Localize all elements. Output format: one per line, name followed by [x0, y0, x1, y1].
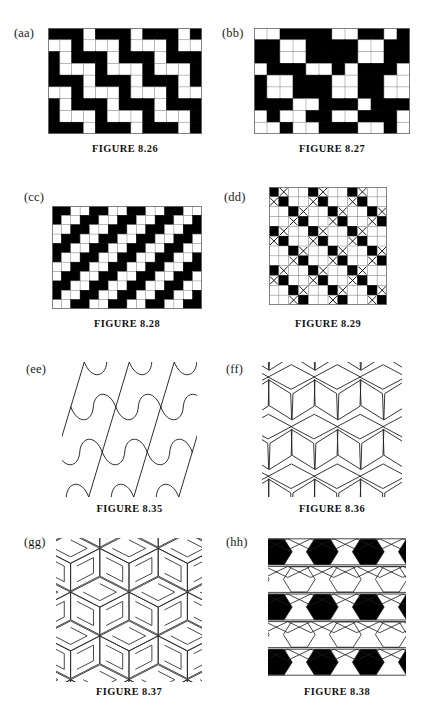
- tiling-grid-cc: [52, 206, 202, 309]
- figure-label-gg: (gg): [24, 535, 46, 550]
- figure-caption-hh: FIGURE 8.38: [268, 686, 406, 697]
- figure-artwork-ff: [262, 362, 402, 497]
- figure-caption-cc: FIGURE 8.28: [52, 318, 202, 329]
- figure-label-cc: (cc): [24, 190, 44, 205]
- figure-artwork-dd: [269, 187, 387, 305]
- figure-label-bb: (bb): [222, 26, 244, 41]
- tiling-art-ff: [262, 362, 402, 497]
- figure-artwork-hh: [268, 538, 406, 676]
- figure-caption-ff: FIGURE 8.36: [262, 503, 402, 514]
- figure-label-aa: (aa): [14, 26, 34, 41]
- figure-artwork-cc: [52, 206, 202, 309]
- figure-caption-aa: FIGURE 8.26: [48, 143, 202, 154]
- figure-caption-gg: FIGURE 8.37: [56, 686, 202, 697]
- tiling-grid-aa: [48, 28, 202, 134]
- figure-caption-dd: FIGURE 8.29: [269, 318, 387, 329]
- figure-label-ee: (ee): [26, 362, 46, 377]
- figure-label-ff: (ff): [226, 362, 243, 377]
- figure-artwork-aa: [48, 28, 202, 134]
- figure-label-dd: (dd): [224, 190, 246, 205]
- figure-artwork-ee: [62, 362, 197, 497]
- figure-artwork-bb: [254, 28, 410, 134]
- figure-caption-ee: FIGURE 8.35: [62, 503, 197, 514]
- tiling-art-gg: [56, 538, 202, 682]
- tiling-grid-dd: [269, 187, 387, 305]
- figure-plate-page: (aa) FIGURE 8.26 (bb) FIGURE 8.27 (cc) F…: [0, 0, 439, 717]
- figure-caption-bb: FIGURE 8.27: [254, 143, 410, 154]
- figure-label-hh: (hh): [226, 535, 248, 550]
- tiling-art-ee: [62, 362, 197, 497]
- tiling-grid-bb: [254, 28, 410, 134]
- tiling-art-hh: [268, 538, 406, 676]
- figure-artwork-gg: [56, 538, 202, 682]
